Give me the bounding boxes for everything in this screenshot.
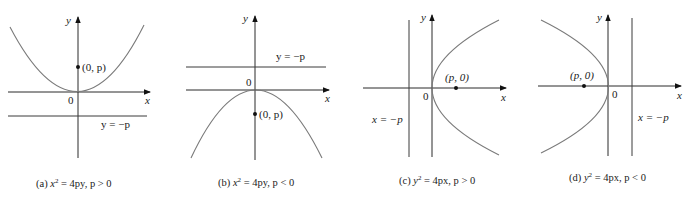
y-axis-label: y	[420, 11, 426, 23]
caption-d: (d) y2 = 4px, p < 0	[569, 171, 646, 184]
caption-c: (c) y2 = 4px, p > 0	[399, 174, 475, 187]
panel-d: y x 0 (p, 0) x = −p (d) y2 = 4px, p < 0	[538, 11, 682, 184]
y-axis-label: y	[65, 14, 71, 26]
x-axis-label: x	[324, 92, 330, 104]
focus-point	[76, 65, 80, 69]
origin-label: 0	[68, 94, 74, 106]
origin-label: 0	[612, 88, 618, 100]
x-axis-label: x	[144, 94, 150, 106]
parabola-curve	[191, 90, 322, 158]
directrix-label: x = −p	[371, 113, 403, 125]
panel-c: y x 0 (p, 0) x = −p (c) y2 = 4px, p > 0	[363, 11, 506, 187]
parabola-diagram: y x 0 (0, p) y = −p (a) x2 = 4py, p > 0 …	[0, 0, 689, 201]
focus-label: (p, 0)	[570, 69, 594, 82]
directrix-label: y = −p	[101, 118, 130, 130]
focus-label: (0, p)	[82, 61, 106, 74]
caption-a: (a) x2 = 4py, p > 0	[36, 177, 112, 190]
y-axis-label: y	[596, 11, 602, 23]
origin-label: 0	[423, 90, 429, 102]
focus-point	[454, 86, 458, 90]
x-axis-label: x	[676, 89, 682, 101]
parabola-curve	[10, 25, 144, 92]
focus-point	[582, 84, 586, 88]
panel-b: y x 0 (0, p) y = −p (b) x2 = 4py, p < 0	[186, 12, 330, 189]
focus-label: (p, 0)	[445, 71, 469, 84]
origin-label: 0	[246, 76, 252, 88]
panel-a: y x 0 (0, p) y = −p (a) x2 = 4py, p > 0	[8, 14, 150, 190]
directrix-label: x = −p	[637, 111, 669, 123]
focus-label: (0, p)	[259, 108, 283, 121]
y-axis-label: y	[242, 12, 248, 24]
x-axis-label: x	[500, 91, 506, 103]
focus-point	[253, 112, 257, 116]
directrix-label: y = −p	[276, 50, 305, 62]
caption-b: (b) x2 = 4py, p < 0	[218, 176, 294, 189]
